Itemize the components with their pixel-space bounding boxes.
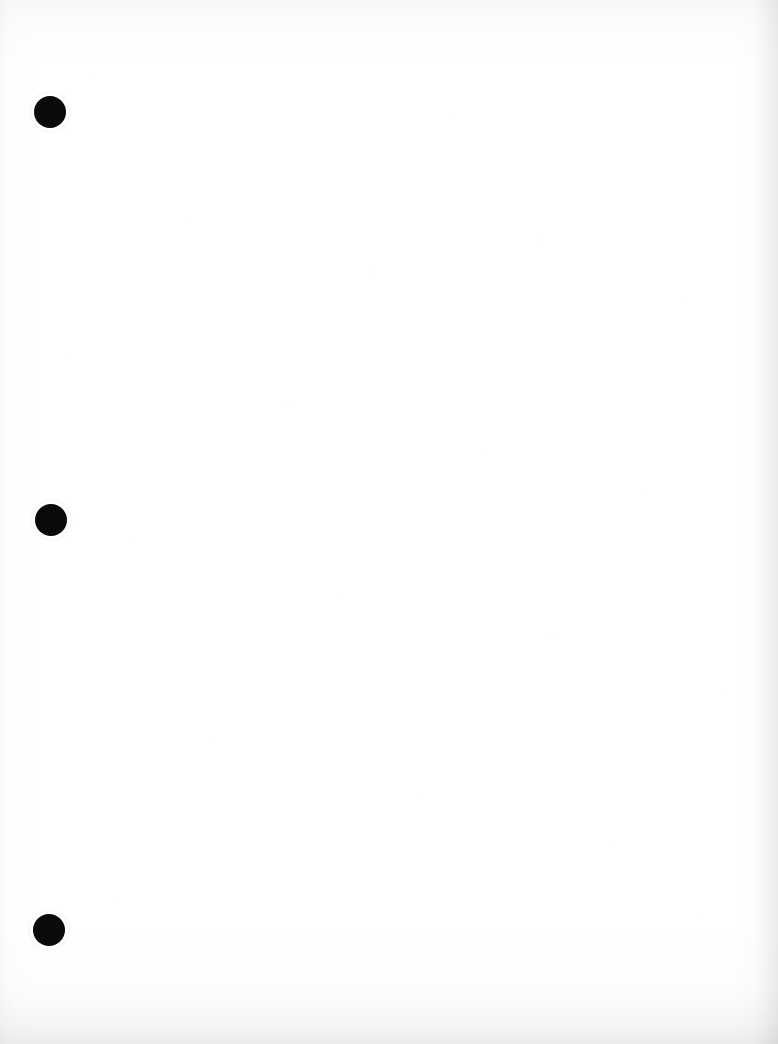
- document-page: [0, 0, 778, 1044]
- punch-hole-top: [34, 96, 66, 128]
- paper-sheet: [0, 0, 778, 1044]
- punch-hole-middle: [35, 504, 67, 536]
- punch-hole-bottom: [33, 914, 65, 946]
